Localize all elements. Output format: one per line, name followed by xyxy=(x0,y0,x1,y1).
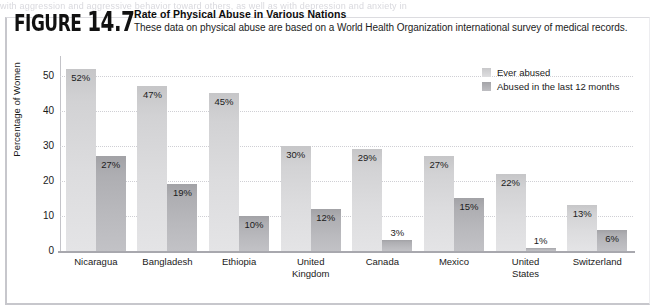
bar[interactable]: 45% xyxy=(209,93,239,251)
x-axis-category-label-line: Nicaragua xyxy=(60,256,132,268)
x-axis-category-label: Canada xyxy=(347,256,419,280)
y-axis-tick-label: 30 xyxy=(32,140,54,151)
x-axis-category-label-line: Kingdom xyxy=(275,268,347,280)
legend-swatch-icon-ever-abused xyxy=(482,68,491,77)
x-axis-category-label: Nicaragua xyxy=(60,256,132,280)
bar-value-label: 12% xyxy=(311,212,341,223)
bar-value-label: 3% xyxy=(382,227,412,238)
bar-value-label: 15% xyxy=(454,201,484,212)
x-axis-category-label-line: States xyxy=(490,268,562,280)
legend-label-abused-last-12-months: Abused in the last 12 months xyxy=(497,81,620,92)
y-axis-tick-label: 20 xyxy=(32,175,54,186)
bar[interactable]: 6% xyxy=(597,230,627,251)
bar-value-label: 22% xyxy=(496,177,526,188)
bar[interactable]: 52% xyxy=(66,69,96,251)
bar-pair: 27%15% xyxy=(418,58,490,251)
x-axis-category-label-line: United xyxy=(490,256,562,268)
x-axis-category-label: Switzerland xyxy=(561,256,633,280)
bar-group: 30%12% xyxy=(275,58,347,251)
x-axis-category-label: UnitedStates xyxy=(490,256,562,280)
bar-value-label: 10% xyxy=(239,219,269,230)
bar-value-label: 19% xyxy=(167,187,197,198)
bar[interactable]: 13% xyxy=(567,205,597,251)
bar-group: 27%15% xyxy=(418,58,490,251)
bar-value-label: 6% xyxy=(597,233,627,244)
bar-value-label: 27% xyxy=(96,159,126,170)
bar-group: 47%19% xyxy=(132,58,204,251)
bar[interactable]: 47% xyxy=(137,86,167,251)
bar-pair: 29%3% xyxy=(347,58,419,251)
x-axis-category-label: Bangladesh xyxy=(132,256,204,280)
y-axis-title-text: Percentage of Women xyxy=(11,50,22,170)
y-axis-tick-label: 50 xyxy=(32,70,54,81)
bar-value-label: 30% xyxy=(281,149,311,160)
x-axis-category-label-line: Canada xyxy=(347,256,419,268)
legend-label-ever-abused: Ever abused xyxy=(497,67,550,78)
x-axis-category-label: Ethiopia xyxy=(203,256,275,280)
bar-group: 29%3% xyxy=(347,58,419,251)
bar[interactable]: 27% xyxy=(424,156,454,251)
x-axis-category-label: UnitedKingdom xyxy=(275,256,347,280)
y-axis-tick-label: 0 xyxy=(32,245,54,256)
y-axis-tick-label: 10 xyxy=(32,210,54,221)
y-axis-ticks: 01020304050 xyxy=(26,58,54,251)
x-axis-category-label-line: Switzerland xyxy=(561,256,633,268)
chart-legend: Ever abused Abused in the last 12 months xyxy=(482,66,642,94)
bar-value-label: 47% xyxy=(137,89,167,100)
x-axis-baseline xyxy=(58,251,635,253)
bar[interactable]: 12% xyxy=(311,209,341,251)
legend-item-abused-last-12-months: Abused in the last 12 months xyxy=(482,80,642,93)
legend-swatch-icon-abused-last-12-months xyxy=(482,82,491,91)
bar-group: 52%27% xyxy=(60,58,132,251)
x-axis-category-label-line: Mexico xyxy=(418,256,490,268)
bar[interactable]: 10% xyxy=(239,216,269,251)
figure-root: with aggression and aggressive behavior … xyxy=(0,0,653,308)
x-axis-category-label-line: Ethiopia xyxy=(203,256,275,268)
bar[interactable]: 3% xyxy=(382,240,412,251)
bar-pair: 45%10% xyxy=(203,58,275,251)
bar[interactable]: 22% xyxy=(496,174,526,251)
bar[interactable]: 27% xyxy=(96,156,126,251)
bar-value-label: 29% xyxy=(352,152,382,163)
bar-group: 45%10% xyxy=(203,58,275,251)
x-axis-category-label-line: United xyxy=(275,256,347,268)
chart-plot: Percentage of Women 01020304050 52%27%47… xyxy=(0,0,645,288)
bar[interactable]: 15% xyxy=(454,198,484,251)
y-axis-title: Percentage of Women xyxy=(11,103,22,117)
bar-value-label: 1% xyxy=(526,235,556,246)
bar[interactable]: 29% xyxy=(352,149,382,251)
bar-value-label: 27% xyxy=(424,159,454,170)
legend-item-ever-abused: Ever abused xyxy=(482,66,642,79)
x-axis-category-label: Mexico xyxy=(418,256,490,280)
bar-pair: 47%19% xyxy=(132,58,204,251)
bar-value-label: 45% xyxy=(209,96,239,107)
bar-value-label: 52% xyxy=(66,72,96,83)
bar-value-label: 13% xyxy=(567,208,597,219)
x-axis-category-labels: NicaraguaBangladeshEthiopiaUnitedKingdom… xyxy=(60,256,633,280)
bar[interactable]: 19% xyxy=(167,184,197,251)
bar-pair: 30%12% xyxy=(275,58,347,251)
y-axis-tick-label: 40 xyxy=(32,105,54,116)
x-axis-category-label-line: Bangladesh xyxy=(132,256,204,268)
bar[interactable]: 30% xyxy=(281,146,311,251)
bar-pair: 52%27% xyxy=(60,58,132,251)
